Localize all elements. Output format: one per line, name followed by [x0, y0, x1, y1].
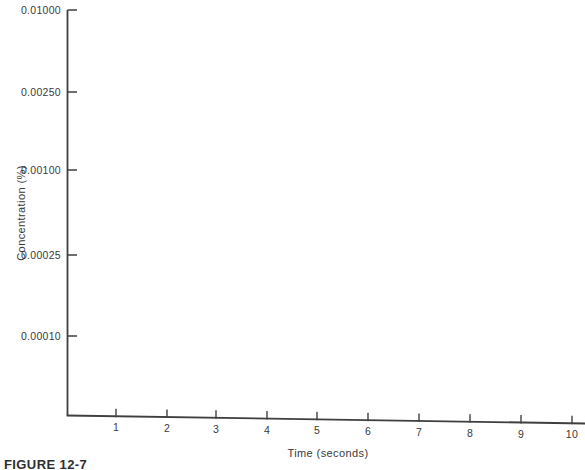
- x-axis-title: Time (seconds): [288, 447, 369, 459]
- y-tick-label: 0.00250: [14, 86, 61, 98]
- x-axis-line: [67, 416, 585, 424]
- x-tick-label: 5: [314, 424, 320, 436]
- scanned-figure-page: 0.010000.002500.001000.000250.00010 1234…: [0, 0, 585, 470]
- figure-caption: FIGURE 12-7: [4, 458, 87, 470]
- x-tick-label: 2: [164, 422, 170, 434]
- x-tick-label: 3: [213, 423, 219, 435]
- x-tick-label: 8: [467, 427, 473, 439]
- chart-axes: [0, 0, 585, 470]
- x-tick-label: 9: [518, 428, 524, 440]
- x-tick-label: 7: [416, 426, 422, 438]
- y-tick-label: 0.00010: [14, 330, 61, 342]
- x-tick-label: 1: [113, 421, 119, 433]
- y-axis-title: Concentration (%): [15, 165, 27, 260]
- x-tick-label: 6: [365, 425, 371, 437]
- y-tick-label: 0.01000: [14, 4, 61, 16]
- x-tick-label: 10: [566, 428, 578, 440]
- x-tick-label: 4: [264, 424, 270, 436]
